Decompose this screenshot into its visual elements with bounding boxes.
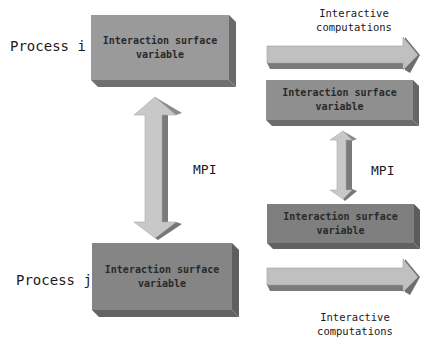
box-text-line2: variable xyxy=(105,277,219,291)
box-text: Interaction surface variable xyxy=(267,204,414,243)
right-top-interaction-box: Interaction surface variable xyxy=(266,80,419,126)
right-bottom-computation-arrow xyxy=(267,259,420,295)
box-text-line1: Interaction surface xyxy=(105,263,219,277)
box-text: Interaction surface variable xyxy=(91,15,229,80)
computation-label-line1: Interactive xyxy=(299,6,409,20)
box-text-line1: Interaction surface xyxy=(282,86,396,100)
top-computation-label: Interactive computations xyxy=(299,6,409,34)
right-bottom-interaction-box: Interaction surface variable xyxy=(267,204,420,249)
bottom-computation-label: Interactive computations xyxy=(300,310,410,338)
computation-label-line1: Interactive xyxy=(300,310,410,324)
box-text: Interaction surface variable xyxy=(266,80,413,120)
left-bottom-interaction-box: Interaction surface variable xyxy=(92,243,239,317)
left-mpi-double-arrow xyxy=(134,97,182,240)
right-mpi-label: MPI xyxy=(371,163,394,178)
box-text-line1: Interaction surface xyxy=(103,34,217,48)
computation-label-line2: computations xyxy=(300,324,410,338)
box-text-line2: variable xyxy=(103,48,217,62)
left-top-interaction-box: Interaction surface variable xyxy=(91,15,236,87)
computation-label-line2: computations xyxy=(299,20,409,34)
box-text: Interaction surface variable xyxy=(92,243,232,310)
left-mpi-label: MPI xyxy=(193,162,216,177)
box-text-line1: Interaction surface xyxy=(283,210,397,224)
box-text-line2: variable xyxy=(283,224,397,238)
box-text-line2: variable xyxy=(282,100,396,114)
right-mpi-double-arrow xyxy=(330,131,357,201)
right-top-computation-arrow xyxy=(267,37,420,73)
